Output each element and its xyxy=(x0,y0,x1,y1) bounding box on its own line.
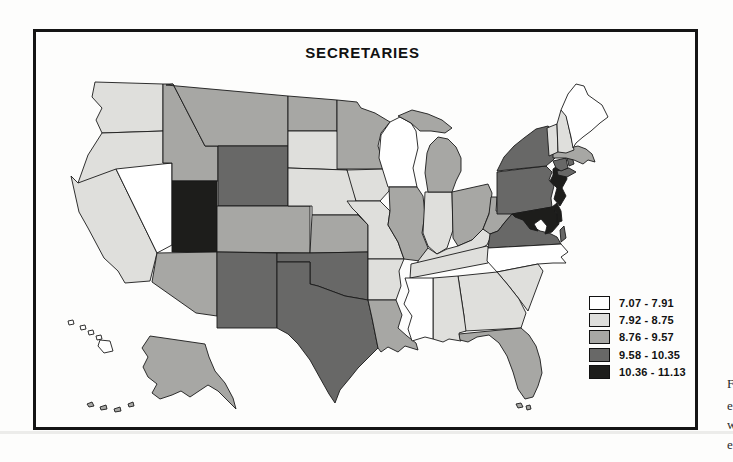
legend-swatch-class4 xyxy=(589,348,610,362)
state-wa xyxy=(92,82,163,133)
state-ak xyxy=(100,405,107,410)
legend-label-class5: 10.36 - 11.13 xyxy=(619,366,686,378)
state-ks xyxy=(310,215,368,253)
state-in xyxy=(423,192,453,254)
state-vt xyxy=(547,124,558,156)
legend-row: 7.92 - 8.75 xyxy=(589,311,686,328)
legend-row: 10.36 - 11.13 xyxy=(589,364,686,381)
legend-swatch-class3 xyxy=(589,330,610,344)
scanned-figure-page: SECRETARIES 7.07 - 7.91 7.92 - 8.75 8.76… xyxy=(0,0,733,462)
state-mi xyxy=(425,137,461,192)
caption-fragment: F xyxy=(727,376,733,391)
legend-swatch-class1 xyxy=(589,296,610,310)
state-nm xyxy=(217,252,277,328)
state-fl xyxy=(526,405,531,410)
legend-row: 7.07 - 7.91 xyxy=(589,294,686,311)
state-fl xyxy=(516,403,523,408)
map-legend: 7.07 - 7.91 7.92 - 8.75 8.76 - 9.57 9.58… xyxy=(589,294,686,381)
state-wy xyxy=(218,146,288,206)
state-pa xyxy=(497,166,554,214)
legend-label-class4: 9.58 - 10.35 xyxy=(619,349,680,361)
state-ak xyxy=(87,402,94,407)
state-ms xyxy=(404,278,433,341)
state-ak xyxy=(128,402,134,407)
state-nd xyxy=(288,96,337,131)
legend-row: 9.58 - 10.35 xyxy=(589,346,686,363)
state-ut xyxy=(172,181,217,252)
legend-row: 8.76 - 9.57 xyxy=(589,329,686,346)
state-ak xyxy=(114,407,121,412)
state-fl xyxy=(459,328,542,399)
legend-label-class2: 7.92 - 8.75 xyxy=(619,314,674,326)
states-group xyxy=(68,82,608,412)
state-ar xyxy=(368,259,404,300)
legend-label-class3: 8.76 - 9.57 xyxy=(619,331,674,343)
scan-artifact-band xyxy=(0,431,733,434)
state-va xyxy=(560,226,566,242)
caption-fragment: e xyxy=(727,437,733,452)
state-az xyxy=(152,252,217,316)
legend-swatch-class2 xyxy=(589,313,610,327)
legend-swatch-class5 xyxy=(589,365,610,379)
state-co xyxy=(217,206,310,253)
state-hi xyxy=(68,320,74,325)
us-choropleth-map xyxy=(0,0,733,462)
state-hi xyxy=(96,335,102,340)
caption-fragment: e xyxy=(727,398,733,413)
caption-fragment: w xyxy=(727,417,733,432)
state-ak xyxy=(142,336,236,409)
state-hi xyxy=(80,325,86,330)
state-hi xyxy=(98,340,113,353)
legend-label-class1: 7.07 - 7.91 xyxy=(619,297,674,309)
state-hi xyxy=(88,330,94,335)
